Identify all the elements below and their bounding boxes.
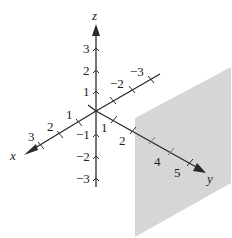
- y-tick-label: −3: [130, 64, 144, 79]
- z-tick-label: −3: [76, 171, 90, 186]
- x-axis-label: x: [9, 148, 16, 163]
- y-tick-label: 4: [154, 154, 161, 169]
- z-tick-label: 2: [83, 63, 90, 78]
- z-axis-arrow-icon: [92, 24, 100, 36]
- y-tick-label: −2: [110, 76, 124, 91]
- x-tick-label: 2: [47, 119, 54, 134]
- z-tick-label: 3: [83, 41, 90, 56]
- z-tick-label: −1: [76, 127, 90, 142]
- x-tick-label: 1: [66, 107, 73, 122]
- y-tick-label: 5: [174, 165, 181, 180]
- x-tick-label: 3: [28, 129, 35, 144]
- y-axis-label: y: [205, 171, 213, 186]
- z-axis-label: z: [91, 8, 97, 23]
- y-tick-label: 1: [101, 120, 108, 135]
- coordinate-diagram: z x y 3 2 1 −1 −2 −3 1 2 3 1 2 4 5 −2 −3: [0, 0, 232, 238]
- x-axis-arrow-icon: [24, 144, 38, 155]
- shaded-plane: [135, 67, 231, 237]
- y-tick-label: 2: [119, 133, 126, 148]
- x-axis-negative: [88, 105, 96, 111]
- z-tick-label: 1: [83, 84, 90, 99]
- z-tick-label: −2: [76, 149, 90, 164]
